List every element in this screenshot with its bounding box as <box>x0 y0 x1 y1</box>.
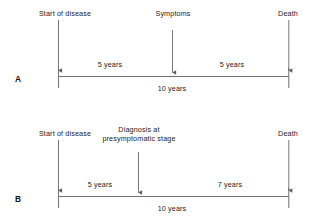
panel-a-total-duration-label: 10 years <box>158 85 187 94</box>
panel-b-start-of-disease-label: Start of disease <box>39 130 91 139</box>
panel-b-interval-start-to-diagnosis-label: 5 years <box>88 181 113 190</box>
panel-b-total-duration-label: 10 years <box>158 205 187 214</box>
panel-a-start-of-disease-label: Start of disease <box>39 10 91 19</box>
panel-b-diagnosis-label: Diagnosis at presymptomatic stage <box>93 126 185 143</box>
panel-a-interval-start-to-symptoms-label: 5 years <box>98 61 123 70</box>
panel-b-letter: B <box>15 194 21 204</box>
panel-a-death-label: Death <box>278 10 298 19</box>
lead-time-bias-figure: A Start of disease Symptoms Death 5 year… <box>0 0 315 219</box>
panel-b-death-label: Death <box>278 130 298 139</box>
timeline-graphics <box>0 0 315 219</box>
panel-a-letter: A <box>15 74 21 84</box>
panel-a-interval-symptoms-to-death-label: 5 years <box>220 61 245 70</box>
panel-a-symptoms-label: Symptoms <box>155 10 190 19</box>
panel-b-interval-diagnosis-to-death-label: 7 years <box>218 181 243 190</box>
